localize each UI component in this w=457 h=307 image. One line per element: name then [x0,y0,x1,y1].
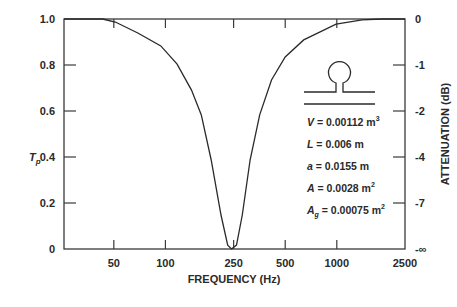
y2-axis-title: ATTENUATION (dB) [439,83,451,186]
y-tick-label: 0.2 [40,197,55,209]
parameter-label: L = 0.006 m [307,138,364,150]
parameter-label: A = 0.0028 m2 [306,181,375,194]
x-tick-label: 500 [276,257,294,269]
parameter-label: a = 0.0155 m [307,160,369,172]
y2-tick-label: -2 [415,105,425,117]
y-tick-label: 0.6 [40,105,55,117]
y-tick-label: 0.8 [40,59,55,71]
x-tick-label: 50 [108,257,120,269]
y2-tick-label: -1 [415,59,425,71]
y2-tick-label: -∞ [415,243,427,255]
y-tick-label: 0 [49,243,55,255]
x-tick-label: 2500 [393,257,417,269]
y-tick-label: 0.4 [40,151,56,163]
parameter-label: V = 0.00112 m3 [307,115,380,128]
x-tick-label: 1000 [325,257,349,269]
x-axis-title: FREQUENCY (Hz) [188,273,281,285]
x-tick-label: 100 [156,257,174,269]
x-tick-label: 250 [224,257,242,269]
attenuation-chart: 5010025050010002500 00.20.40.60.81.0 0-1… [0,0,457,307]
y-tick-label: 1.0 [40,13,55,25]
y2-tick-label: -7 [415,197,425,209]
y2-tick-label: -4 [415,151,426,163]
y2-tick-label: 0 [415,13,421,25]
